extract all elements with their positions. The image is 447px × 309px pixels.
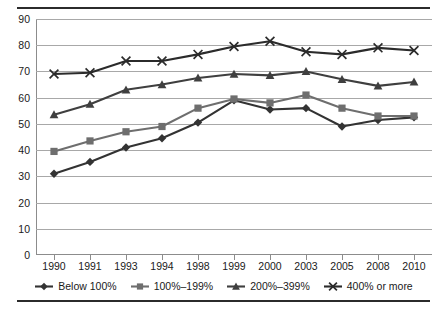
data-point: [86, 137, 93, 144]
legend-marker-triangle-icon: [226, 281, 246, 292]
chart-legend: Below 100%100%–199%200%–399%400% or more: [17, 281, 430, 292]
data-point: [86, 158, 94, 166]
data-point: [266, 99, 273, 106]
y-axis-tick-label: 10: [2, 224, 30, 234]
legend-label: Below 100%: [58, 281, 116, 292]
y-axis-tick-label: 0: [2, 250, 30, 260]
legend-marker-cross-icon: [323, 281, 343, 292]
legend-item[interactable]: 100%–199%: [130, 281, 214, 292]
plot-area: [36, 19, 432, 255]
data-point: [230, 95, 237, 102]
data-point: [50, 148, 57, 155]
data-point: [122, 143, 130, 151]
data-point: [158, 123, 165, 130]
legend-item[interactable]: 200%–399%: [226, 281, 310, 292]
data-point: [410, 112, 417, 119]
bottom-divider: [17, 300, 430, 302]
y-axis-tick-label: 80: [2, 40, 30, 50]
top-divider: [17, 7, 430, 9]
series-triangle: [50, 67, 419, 118]
data-point: [266, 105, 274, 113]
legend-marker-square-icon: [130, 281, 150, 292]
legend-item[interactable]: 400% or more: [323, 281, 413, 292]
data-point: [50, 170, 58, 178]
x-axis-tick-label: 2010: [392, 261, 436, 272]
legend-label: 100%–199%: [154, 281, 214, 292]
series-layer: [36, 19, 432, 255]
y-axis-tick-label: 50: [2, 119, 30, 129]
data-point: [338, 105, 345, 112]
legend-item[interactable]: Below 100%: [34, 281, 116, 292]
data-point: [338, 122, 346, 130]
y-axis-tick-label: 40: [2, 145, 30, 155]
legend-label: 400% or more: [347, 281, 413, 292]
chart-title: [17, 0, 430, 6]
legend-marker-diamond-icon: [34, 281, 54, 292]
chart-figure: 9080706050403020100 19901991199319941998…: [0, 0, 447, 309]
data-point: [374, 112, 381, 119]
y-axis-tick-label: 30: [2, 171, 30, 181]
y-axis-tick-label: 60: [2, 93, 30, 103]
data-point: [122, 128, 129, 135]
y-axis-tick-label: 20: [2, 198, 30, 208]
y-axis-tick-label: 70: [2, 66, 30, 76]
data-point: [302, 104, 310, 112]
data-point: [158, 134, 166, 142]
legend-label: 200%–399%: [250, 281, 310, 292]
data-point: [194, 105, 201, 112]
y-axis-tick-label: 90: [2, 14, 30, 24]
data-point: [302, 91, 309, 98]
series-line: [54, 71, 414, 114]
